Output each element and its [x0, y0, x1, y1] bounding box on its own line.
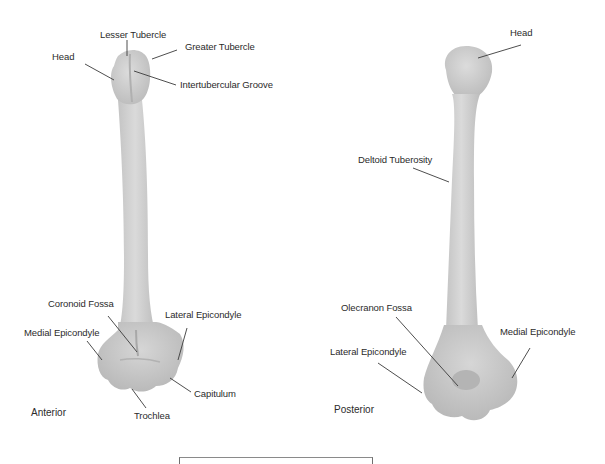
label-intertubercular-groove: Intertubercular Groove: [180, 79, 273, 90]
label-posterior-medial-epicondyle: Medial Epicondyle: [500, 326, 575, 337]
label-anterior-medial-epicondyle: Medial Epicondyle: [24, 327, 99, 338]
label-lesser-tubercle: Lesser Tubercle: [100, 29, 166, 40]
label-deltoid-tuberosity: Deltoid Tuberosity: [358, 154, 432, 165]
view-label-anterior: Anterior: [31, 407, 66, 418]
posterior-humerus: [423, 46, 517, 420]
label-capitulum: Capitulum: [194, 388, 236, 399]
label-greater-tubercle: Greater Tubercle: [185, 41, 255, 52]
label-posterior-head: Head: [510, 27, 532, 38]
label-coronoid-fossa: Coronoid Fossa: [48, 298, 114, 309]
label-posterior-lateral-epicondyle: Lateral Epicondyle: [330, 346, 406, 357]
bottom-bracket: [179, 457, 373, 464]
label-trochlea: Trochlea: [134, 410, 170, 421]
anterior-humerus: [97, 50, 183, 392]
label-anterior-head: Head: [52, 51, 74, 62]
label-olecranon-fossa: Olecranon Fossa: [341, 302, 412, 313]
label-anterior-lateral-epicondyle: Lateral Epicondyle: [165, 309, 241, 320]
view-label-posterior: Posterior: [334, 404, 374, 415]
